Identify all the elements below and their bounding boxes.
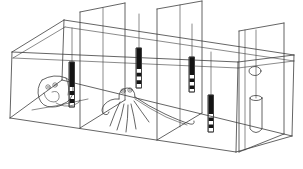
partition-2 — [157, 1, 202, 140]
lever-4-band — [209, 118, 214, 122]
illustration-canvas — [0, 0, 303, 169]
lever-2-band — [137, 80, 142, 84]
lever-3-band — [190, 86, 195, 90]
lid-hole — [249, 67, 261, 76]
water-level-lines — [13, 27, 294, 68]
lever-2-solid-section — [137, 48, 142, 69]
lever-4-solid-section — [209, 95, 214, 114]
lever-4-band — [209, 125, 214, 129]
lever-3-solid-section — [190, 57, 195, 75]
experiment-tank-illustration — [0, 0, 303, 169]
lever-1-band — [70, 99, 75, 103]
lever-1-band — [70, 91, 75, 95]
lever-1-solid-section — [70, 62, 75, 87]
octopus-spread — [102, 88, 194, 132]
lever-2-band — [137, 73, 142, 77]
lever-3-band — [190, 79, 195, 83]
